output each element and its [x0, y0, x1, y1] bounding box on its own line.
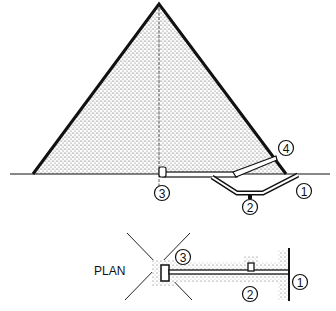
plan-stipple-wall — [278, 250, 288, 300]
svg-text:2: 2 — [247, 288, 254, 302]
pyramid-diagram: 4 1 3 2 PLAN — [0, 0, 336, 311]
plan-niche-2 — [248, 263, 254, 271]
lower-passage-outer — [212, 175, 298, 193]
plan-marker-2: 2 — [243, 287, 258, 302]
marker-4: 4 — [279, 141, 294, 156]
svg-text:3: 3 — [180, 251, 187, 265]
pyramid-body — [33, 4, 286, 174]
section-view: 4 1 3 2 — [10, 4, 330, 215]
plan-title: PLAN — [94, 264, 125, 278]
svg-text:3: 3 — [159, 187, 166, 201]
marker-3: 3 — [155, 186, 170, 201]
marker-2: 2 — [243, 200, 258, 215]
svg-text:1: 1 — [297, 276, 304, 290]
svg-text:2: 2 — [247, 201, 254, 215]
plan-chamber-3 — [161, 265, 169, 281]
niche-2 — [248, 195, 252, 199]
marker-1: 1 — [297, 184, 312, 199]
plan-corridor — [169, 270, 289, 274]
plan-marker-3: 3 — [176, 250, 191, 265]
plan-view: PLAN 3 2 1 — [94, 233, 308, 302]
svg-text:4: 4 — [283, 142, 290, 156]
chamber-3 — [159, 167, 166, 177]
horizontal-passage — [163, 172, 237, 177]
plan-marker-1: 1 — [293, 275, 308, 290]
svg-text:1: 1 — [301, 185, 308, 199]
